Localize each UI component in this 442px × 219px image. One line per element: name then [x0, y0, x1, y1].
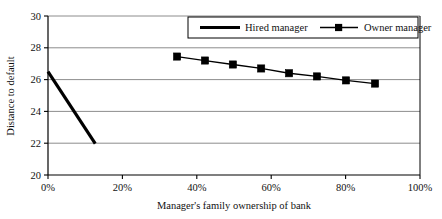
data-point-marker — [173, 53, 180, 60]
legend-label-hired-manager: Hired manager — [245, 22, 308, 33]
x-tick-label-0%: 0% — [41, 182, 55, 193]
data-point-marker — [258, 65, 265, 72]
y-tick-label-28: 28 — [31, 42, 42, 53]
data-point-marker — [342, 77, 349, 84]
data-point-marker — [313, 73, 320, 80]
x-axis-title: Manager's family ownership of bank — [157, 200, 312, 211]
chart-legend: Hired managerOwner manager — [188, 17, 432, 38]
y-tick-label-24: 24 — [31, 106, 42, 117]
y-tick-label-22: 22 — [31, 138, 42, 149]
legend-swatch-square-marker — [335, 24, 342, 31]
y-tick-label-30: 30 — [31, 11, 42, 22]
line-chart: 2022242628300%20%40%60%80%100% Hired man… — [0, 0, 442, 219]
y-tick-label-20: 20 — [31, 170, 42, 181]
data-point-marker — [229, 61, 236, 68]
data-point-marker — [201, 57, 208, 64]
data-point-marker — [371, 80, 378, 87]
x-tick-label-20%: 20% — [113, 182, 133, 193]
x-tick-label-100%: 100% — [408, 182, 433, 193]
y-tick-label-26: 26 — [31, 74, 42, 85]
x-tick-label-80%: 80% — [336, 182, 356, 193]
x-tick-label-60%: 60% — [262, 182, 282, 193]
data-point-marker — [285, 70, 292, 77]
chart-container: 2022242628300%20%40%60%80%100% Hired man… — [0, 0, 442, 219]
x-tick-label-40%: 40% — [187, 182, 207, 193]
y-axis-title: Distance to default — [5, 56, 16, 135]
legend-label-owner-manager: Owner manager — [364, 22, 432, 33]
